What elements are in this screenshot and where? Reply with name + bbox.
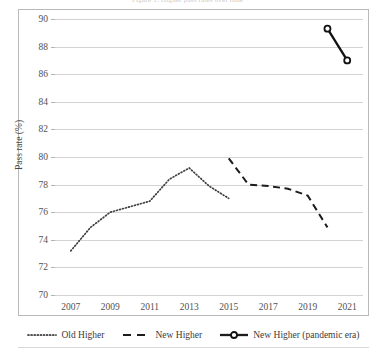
legend-item-label: Old Higher [61, 330, 104, 340]
x-tick-label: 2017 [259, 302, 278, 312]
data-point-marker [344, 57, 350, 63]
x-tick-label: 2009 [101, 302, 120, 312]
chart-figure: Figure 1: Higher pass rates over time Pa… [0, 0, 375, 359]
chart-legend: Old HigherNew HigherNew Higher (pandemic… [18, 322, 369, 348]
y-axis-label: Pass rate (%) [14, 120, 24, 170]
legend-item-label: New Higher [156, 330, 203, 340]
y-tick-mark [51, 295, 55, 296]
y-tick-label: 70 [39, 290, 49, 300]
gridline [55, 295, 363, 296]
plot-area: 7072747678808284868890 20072009201120132… [55, 19, 363, 295]
y-tick-label: 88 [39, 42, 49, 52]
y-tick-label: 82 [39, 124, 49, 134]
y-tick-label: 80 [39, 152, 49, 162]
y-tick-label: 78 [39, 180, 49, 190]
y-tick-label: 84 [39, 97, 49, 107]
series-line [71, 168, 229, 251]
data-point-marker [324, 26, 330, 32]
dashed-line-swatch [122, 330, 152, 340]
x-tick-label: 2011 [140, 302, 159, 312]
x-tick-label: 2015 [219, 302, 238, 312]
dotted-line-swatch [27, 330, 57, 340]
legend-item[interactable]: New Higher (pandemic era) [219, 330, 359, 340]
y-tick-label: 72 [39, 262, 49, 272]
x-tick-label: 2007 [61, 302, 80, 312]
y-tick-label: 76 [39, 207, 49, 217]
series-line [327, 29, 347, 61]
legend-item[interactable]: New Higher [122, 330, 203, 340]
y-tick-label: 74 [39, 235, 49, 245]
x-tick-label: 2021 [338, 302, 357, 312]
x-tick-label: 2013 [180, 302, 199, 312]
x-tick-label: 2019 [298, 302, 317, 312]
y-tick-label: 86 [39, 69, 49, 79]
chart-title: Figure 1: Higher pass rates over time [0, 0, 375, 5]
legend-item[interactable]: Old Higher [27, 330, 104, 340]
y-tick-label: 90 [39, 14, 49, 24]
solid-line-marker-swatch [219, 330, 249, 340]
legend-item-label: New Higher (pandemic era) [253, 330, 359, 340]
data-point-marker [231, 332, 237, 338]
series-layer [55, 19, 363, 295]
series-line [229, 158, 328, 227]
